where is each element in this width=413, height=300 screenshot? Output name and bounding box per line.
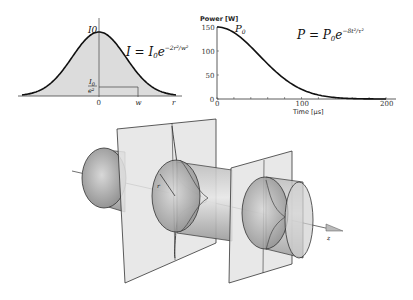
gaussian-profile-plot: I0 I0 e² 0 w r I = I0e−2r²/w² bbox=[18, 18, 189, 107]
peak-label: I0 bbox=[87, 25, 98, 35]
x-tick-label: 100 bbox=[296, 100, 309, 108]
figure-canvas: I0 I0 e² 0 w r I = I0e−2r²/w² Power [W] … bbox=[0, 0, 413, 300]
tick-zero: 0 bbox=[97, 99, 101, 107]
peak-label-text: I0 bbox=[87, 25, 98, 35]
y-tick-label: 50 bbox=[206, 72, 215, 80]
x-tick-label: 200 bbox=[380, 100, 393, 108]
y-ticks: 050100150 bbox=[201, 24, 219, 104]
middle-cylinder-cap bbox=[152, 160, 200, 232]
power-chart: Power [W] Time [μs] 0100200 050100150 P0… bbox=[200, 15, 396, 116]
right-cylinder-end bbox=[285, 182, 313, 258]
power-formula-exp: −8t²/τ² bbox=[342, 27, 364, 34]
tick-w: w bbox=[136, 99, 142, 107]
p0-label: P0 bbox=[234, 23, 246, 35]
gaussian-formula: I = I0e−2r²/w² bbox=[125, 44, 189, 60]
z-label: z bbox=[326, 234, 331, 241]
threshold-label-den: e² bbox=[88, 87, 95, 95]
tick-r: r bbox=[172, 99, 176, 107]
beam-diagram: z r bbox=[72, 119, 343, 283]
y-tick-label: 100 bbox=[201, 48, 214, 56]
power-formula-lhs: P = P bbox=[296, 28, 332, 42]
z-axis-arrow bbox=[326, 224, 343, 231]
gaussian-formula-exp: −2r²/w² bbox=[165, 44, 189, 51]
p0-sub: 0 bbox=[242, 28, 246, 35]
gaussian-formula-e: e bbox=[158, 45, 165, 59]
y-axis-label: Power [W] bbox=[200, 15, 238, 23]
gaussian-formula-lhs: I = I bbox=[125, 45, 153, 59]
y-tick-label: 0 bbox=[210, 96, 214, 104]
x-axis-label: Time [μs] bbox=[292, 108, 324, 116]
y-tick-label: 150 bbox=[201, 24, 214, 32]
power-formula-e: e bbox=[335, 28, 342, 42]
right-cylinder-front bbox=[242, 177, 288, 249]
power-formula: P = P0e−8t²/τ² bbox=[296, 27, 364, 43]
x-tick-label: 0 bbox=[215, 100, 219, 108]
